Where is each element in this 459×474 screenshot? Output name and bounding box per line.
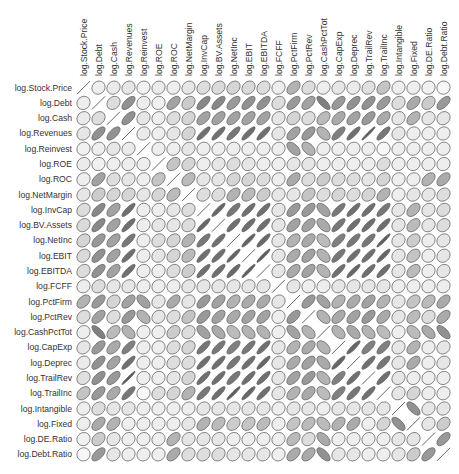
correlation-ellipse [149, 201, 168, 220]
correlation-ellipse [134, 216, 153, 235]
diagonal-line [212, 219, 225, 232]
correlation-ellipse [404, 277, 423, 296]
correlation-ellipse [344, 155, 363, 174]
correlation-ellipse [389, 231, 408, 250]
correlation-ellipse [269, 323, 288, 342]
correlation-ellipse [359, 185, 378, 204]
correlation-ellipse [74, 124, 93, 143]
correlation-ellipse [269, 78, 288, 97]
correlation-ellipse [315, 94, 332, 111]
correlation-ellipse [299, 384, 317, 402]
correlation-ellipse [89, 415, 107, 433]
correlation-ellipse [105, 354, 123, 372]
correlation-ellipse [389, 139, 408, 158]
correlation-ellipse [255, 339, 271, 355]
correlation-ellipse [179, 430, 198, 449]
correlation-ellipse [209, 323, 227, 341]
column-label: log.Reinvest [139, 28, 149, 76]
correlation-ellipse [419, 78, 438, 97]
column-label: log.Revenues [124, 23, 134, 76]
correlation-ellipse [330, 263, 346, 279]
correlation-ellipse [74, 170, 93, 189]
correlation-ellipse [134, 201, 153, 220]
correlation-ellipse [344, 139, 363, 158]
correlation-ellipse [164, 185, 182, 203]
correlation-ellipse [164, 323, 183, 342]
correlation-ellipse [74, 246, 93, 265]
correlation-ellipse [374, 78, 392, 96]
correlation-ellipse [419, 323, 437, 341]
correlation-ellipse [344, 323, 362, 341]
diagonal-line [227, 234, 240, 247]
correlation-ellipse [149, 231, 168, 250]
correlation-ellipse [389, 216, 408, 235]
correlation-ellipse [224, 308, 242, 326]
correlation-ellipse [329, 445, 348, 464]
correlation-ellipse [315, 201, 333, 219]
column-label: log.ROE [154, 43, 164, 76]
correlation-ellipse [241, 233, 257, 249]
correlation-ellipse [195, 339, 212, 356]
correlation-ellipse [134, 323, 153, 342]
row-label: log.PctRev [30, 312, 72, 322]
correlation-ellipse [135, 293, 153, 311]
correlation-ellipse [195, 323, 213, 341]
correlation-ellipse [284, 430, 302, 448]
correlation-ellipse [299, 277, 318, 296]
correlation-ellipse [254, 155, 273, 174]
correlation-ellipse [404, 78, 423, 97]
correlation-ellipse [74, 399, 93, 418]
correlation-ellipse [434, 353, 453, 372]
correlation-ellipse [404, 308, 422, 326]
correlation-ellipse [134, 430, 153, 449]
correlation-ellipse [165, 94, 183, 112]
correlation-ellipse [104, 170, 123, 189]
correlation-ellipse [240, 217, 256, 233]
correlation-ellipse [74, 201, 93, 220]
correlation-ellipse [195, 385, 212, 402]
correlation-ellipse [209, 430, 228, 449]
correlation-ellipse [329, 155, 348, 174]
column-label: log.NetMargin [184, 22, 194, 76]
correlation-ellipse [314, 308, 332, 326]
correlation-ellipse [360, 94, 378, 112]
correlation-ellipse [105, 201, 123, 219]
correlation-ellipse [344, 415, 362, 433]
correlation-ellipse [210, 94, 227, 111]
correlation-ellipse [224, 292, 242, 310]
correlation-ellipse [239, 139, 258, 158]
correlation-ellipse [239, 323, 257, 341]
correlation-ellipse [194, 139, 213, 158]
correlation-ellipse [314, 384, 332, 402]
correlation-ellipse [195, 248, 211, 264]
diagonal-line [257, 265, 270, 278]
correlation-ellipse [360, 308, 378, 326]
correlation-ellipse [195, 370, 211, 386]
correlation-ellipse [359, 445, 378, 464]
correlation-ellipse [345, 232, 362, 249]
correlation-ellipse [74, 353, 93, 372]
correlation-ellipse [359, 430, 378, 449]
correlation-ellipse [209, 155, 228, 174]
correlation-ellipse [284, 109, 303, 128]
correlation-ellipse [389, 353, 408, 372]
correlation-ellipse [149, 246, 168, 265]
correlation-ellipse [269, 124, 288, 143]
correlation-ellipse [164, 369, 183, 388]
correlation-ellipse [104, 78, 123, 97]
correlation-ellipse [376, 233, 391, 248]
correlation-ellipse [90, 216, 107, 233]
correlation-ellipse [299, 323, 317, 341]
correlation-ellipse [210, 293, 228, 311]
correlation-ellipse [419, 262, 438, 281]
column-label: log.CapExp [334, 31, 344, 76]
correlation-ellipse [255, 370, 271, 386]
correlation-ellipse [120, 202, 136, 218]
correlation-ellipse [299, 231, 317, 249]
correlation-ellipse [179, 155, 198, 174]
column-label: log.Stock.Price [79, 18, 89, 76]
correlation-ellipse [389, 292, 408, 311]
correlation-ellipse [269, 155, 288, 174]
correlation-ellipse [239, 399, 258, 418]
correlation-ellipse [419, 292, 437, 310]
